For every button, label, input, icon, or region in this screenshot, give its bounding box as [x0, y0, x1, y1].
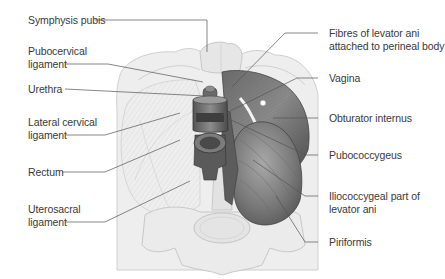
label-pubocervical-ligament: Pubocervical ligament — [28, 45, 87, 71]
symphysis-pubis-shape — [200, 42, 242, 73]
pelvic-floor-diagram: Symphysis pubis Pubocervical ligament Ur… — [0, 0, 445, 279]
left-pelvic-ligaments — [121, 80, 200, 215]
label-vagina: Vagina — [329, 72, 360, 85]
label-rectum: Rectum — [28, 166, 64, 179]
label-symphysis-pubis: Symphysis pubis — [28, 14, 105, 27]
leader-symphysis-pubis — [95, 20, 207, 52]
vagina-shape — [193, 96, 228, 132]
label-obturator-internus: Obturator internus — [329, 112, 412, 125]
label-fibres-levator-ani: Fibres of levator ani attached to perine… — [329, 27, 444, 53]
label-piriformis: Piriformis — [329, 236, 372, 249]
label-lateral-cervical-ligament: Lateral cervical ligament — [28, 116, 97, 142]
label-urethra: Urethra — [28, 83, 62, 96]
label-iliococcygeal: Iliococcygeal part of levator ani — [329, 190, 420, 216]
label-pubococcygeus: Pubococcygeus — [329, 149, 402, 162]
label-uterosacral-ligament: Uterosacral ligament — [28, 203, 81, 229]
